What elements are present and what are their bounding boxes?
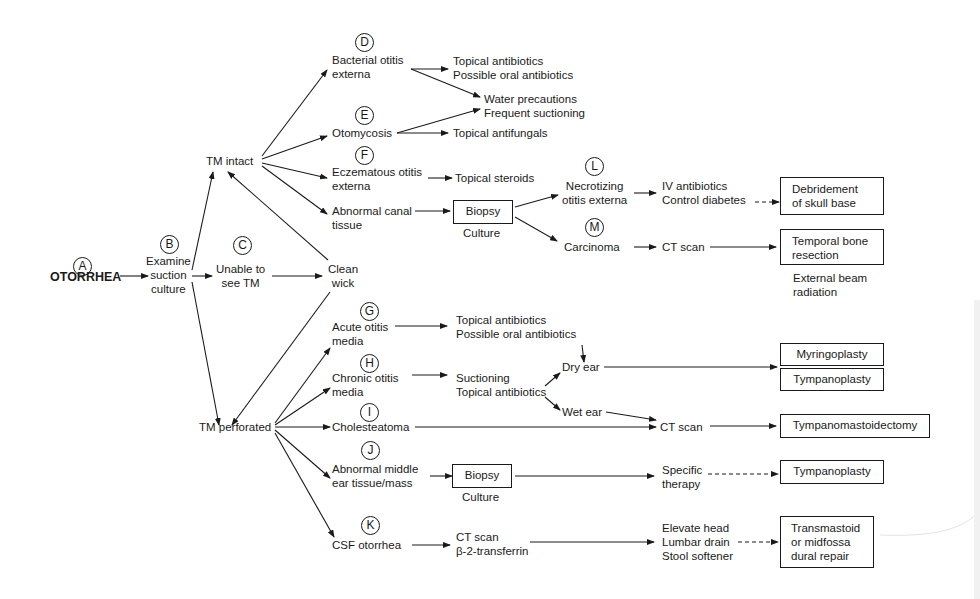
biopsy-middle-box: Biopsy <box>452 464 512 488</box>
biopsy-canal-box: Biopsy <box>453 200 513 224</box>
acute-otitis-media-node: Acute otitis media <box>332 320 388 348</box>
step-f-marker: F <box>355 146 374 165</box>
temporal-bone-resection-box: Temporal bone resection <box>780 229 884 265</box>
step-c-marker: C <box>233 236 252 255</box>
iv-antibiotics: IV antibiotics Control diabetes <box>662 179 746 207</box>
step-j-marker: J <box>361 441 380 460</box>
eczematous-otitis-externa-node: Eczematous otitis externa <box>332 165 422 193</box>
topical-antifungals: Topical antifungals <box>453 126 548 140</box>
step-b-marker: B <box>160 235 179 254</box>
clean-wick-node: Clean wick <box>328 262 358 290</box>
step-l-marker: L <box>585 157 604 176</box>
dural-repair-box: Transmastoid or midfossa dural repair <box>780 516 874 568</box>
step-g-marker: G <box>360 302 379 321</box>
flow-arrows <box>0 0 980 599</box>
chronic-otitis-media-node: Chronic otitis media <box>332 371 398 399</box>
dry-ear-node: Dry ear <box>562 360 600 374</box>
tympanoplasty-box-2: Tympanoplasty <box>780 460 884 484</box>
step-d-marker: D <box>355 33 374 52</box>
external-beam-radiation: External beam radiation <box>793 271 867 299</box>
g-topical-antibiotics: Topical antibiotics Possible oral antibi… <box>456 313 576 341</box>
d-topical-antibiotics: Topical antibiotics Possible oral antibi… <box>453 54 573 82</box>
ct-scan-beta2-transferrin: CT scan β-2-transferrin <box>456 530 528 558</box>
tympanoplasty-box-1: Tympanoplasty <box>780 368 884 391</box>
step-m-marker: M <box>585 218 604 237</box>
abnormal-canal-tissue-node: Abnormal canal tissue <box>332 204 412 232</box>
page-edge-shadow <box>974 300 980 599</box>
unable-to-see-tm-node: Unable to see TM <box>216 262 265 290</box>
cholesteatoma-node: Cholesteatoma <box>332 420 409 434</box>
otorrhea-start-node: OTORRHEA <box>50 270 121 284</box>
m-ct-scan: CT scan <box>662 240 705 254</box>
carcinoma-node: Carcinoma <box>564 240 620 254</box>
otomycosis-node: Otomycosis <box>332 126 392 140</box>
debridement-box: Debridement of skull base <box>780 177 884 215</box>
topical-steroids: Topical steroids <box>455 171 534 185</box>
tympanomastoidectomy-box: Tympanomastoidectomy <box>780 414 930 438</box>
tm-intact-node: TM intact <box>206 154 253 168</box>
wet-ear-node: Wet ear <box>562 405 602 419</box>
necrotizing-otitis-externa-node: Necrotizing otitis externa <box>562 179 627 207</box>
step-k-marker: K <box>361 516 380 535</box>
abnormal-middle-ear-node: Abnormal middle ear tissue/mass <box>332 462 418 490</box>
i-ct-scan: CT scan <box>660 420 703 434</box>
water-precautions: Water precautions Frequent suctioning <box>484 92 585 120</box>
otorrhea-flowchart: A OTORRHEA B Examine suction culture C U… <box>0 0 980 599</box>
culture-middle-label: Culture <box>462 490 499 504</box>
bacterial-otitis-externa-node: Bacterial otitis externa <box>332 53 404 81</box>
examine-suction-culture-node: Examine suction culture <box>146 254 191 296</box>
tm-perforated-node: TM perforated <box>199 420 271 434</box>
culture-canal-label: Culture <box>463 226 500 240</box>
csf-otorrhea-node: CSF otorrhea <box>332 538 401 552</box>
conservative-management: Elevate head Lumbar drain Stool softener <box>662 521 733 563</box>
step-e-marker: E <box>355 106 374 125</box>
h-suctioning: Suctioning Topical antibiotics <box>456 371 546 399</box>
specific-therapy: Specific therapy <box>662 463 702 491</box>
myringoplasty-box: Myringoplasty <box>780 343 884 366</box>
